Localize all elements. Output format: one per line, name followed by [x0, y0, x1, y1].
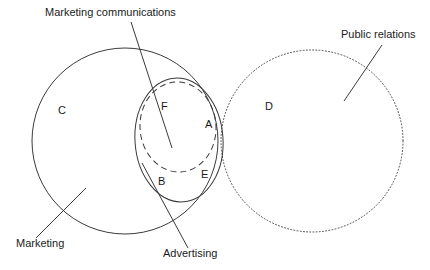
label-advertising: Advertising [163, 247, 217, 259]
region-label-a: A [205, 118, 213, 130]
region-label-b: B [158, 175, 165, 187]
label-marketing-communications: Marketing communications [45, 6, 176, 18]
region-label-c: C [58, 104, 66, 116]
region-label-e: E [201, 168, 208, 180]
leader-line-marketing-communications [131, 22, 172, 148]
label-public-relations: Public relations [341, 28, 416, 40]
venn-diagram-figure: Marketing communications Public relation… [0, 0, 430, 270]
label-marketing: Marketing [16, 237, 64, 249]
marketing-communications-ellipse [131, 75, 227, 205]
marketing-circle [32, 48, 218, 234]
leader-line-public-relations [344, 45, 382, 101]
region-label-f: F [161, 100, 168, 112]
venn-diagram-canvas: Marketing communications Public relation… [0, 0, 430, 270]
leader-line-marketing [36, 188, 86, 238]
public-relations-circle [221, 50, 403, 232]
region-label-d: D [265, 100, 273, 112]
